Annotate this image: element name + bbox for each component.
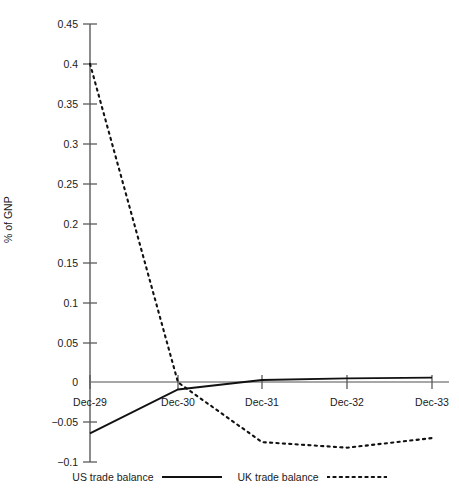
y-tick-label-0.05: 0.05 <box>34 338 78 349</box>
y-tick-label-minus0.1: −0.1 <box>28 457 78 468</box>
legend-label-uk-trade-balance: UK trade balance <box>238 471 319 483</box>
y-tick-label-0.15: 0.15 <box>34 258 78 269</box>
trade-balance-line-chart: 0.45 0.4 0.35 0.3 0.25 0.2 0.15 0.1 0.05… <box>0 0 459 504</box>
y-tick-label-0.3: 0.3 <box>34 139 78 150</box>
legend-swatch-solid-line-icon <box>162 473 222 481</box>
y-tick-label-0.35: 0.35 <box>34 99 78 110</box>
y-tick-label-0: 0 <box>34 377 78 388</box>
x-tick-label-dec-32: Dec-32 <box>312 397 382 408</box>
legend-item-uk-trade-balance: UK trade balance <box>238 471 387 483</box>
y-tick-label-0.2: 0.2 <box>34 219 78 230</box>
chart-plot-area <box>0 0 459 504</box>
x-tick-label-dec-31: Dec-31 <box>227 397 297 408</box>
chart-legend: US trade balance UK trade balance <box>0 471 459 483</box>
y-tick-label-0.4: 0.4 <box>34 59 78 70</box>
x-tick-label-dec-29: Dec-29 <box>55 397 125 408</box>
x-tick-label-dec-33: Dec-33 <box>397 397 459 408</box>
y-axis-title: % of GNP <box>2 196 14 243</box>
series-line-uk-trade-balance <box>90 64 432 448</box>
x-tick-label-dec-30: Dec-30 <box>143 397 213 408</box>
y-tick-label-0.45: 0.45 <box>34 19 78 30</box>
y-tick-label-0.1: 0.1 <box>34 298 78 309</box>
legend-label-us-trade-balance: US trade balance <box>72 471 153 483</box>
legend-swatch-dotted-line-icon <box>327 473 387 481</box>
y-tick-label-minus0.05: −0.05 <box>28 417 78 428</box>
legend-item-us-trade-balance: US trade balance <box>72 471 221 483</box>
y-tick-label-0.25: 0.25 <box>34 179 78 190</box>
